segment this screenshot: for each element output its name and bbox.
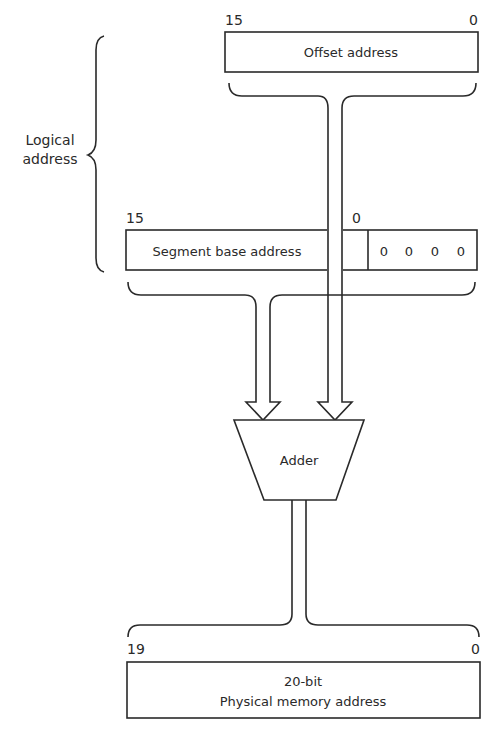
output-bracket [128, 500, 292, 637]
segment-bracket-right [270, 282, 475, 307]
offset-address-label: Offset address [304, 45, 398, 60]
physical-msb-label: 19 [127, 641, 145, 657]
appended-zero: 0 [431, 244, 439, 259]
segment-msb-label: 15 [126, 210, 144, 226]
logical-address-label-line1: Logical [25, 132, 74, 148]
appended-zero: 0 [457, 244, 465, 259]
offset-lsb-label: 0 [469, 12, 478, 28]
offset-bracket-right [342, 83, 476, 108]
offset-bracket [229, 83, 328, 108]
segment-lsb-label: 0 [352, 210, 361, 226]
offset-msb-label: 15 [225, 12, 243, 28]
segmentation-diagram: Logical address 15 0 Offset address 15 0… [0, 0, 502, 741]
physical-address-register [127, 662, 480, 718]
physical-address-label-line1: 20-bit [284, 674, 322, 689]
segment-bracket [128, 282, 256, 307]
segment-base-label: Segment base address [153, 244, 302, 259]
adder-label: Adder [280, 453, 319, 468]
output-bracket-right [306, 500, 479, 637]
appended-zero: 0 [380, 244, 388, 259]
appended-zero: 0 [405, 244, 413, 259]
logical-address-label-line2: address [22, 151, 77, 167]
physical-address-label-line2: Physical memory address [220, 694, 387, 709]
physical-lsb-label: 0 [471, 641, 480, 657]
logical-address-brace [88, 36, 104, 272]
segment-arrow [246, 307, 280, 420]
